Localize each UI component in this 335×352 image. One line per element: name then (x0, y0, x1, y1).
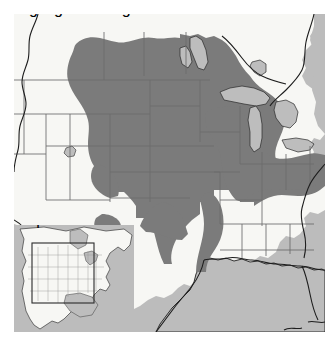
locator-inset[interactable]: Map extent (14, 225, 134, 332)
figure-page: Highlighted range Gulf of Mexico (0, 0, 335, 352)
figure-caption (0, 0, 1, 1)
main-map-ocean-label: Gulf of Mexico (14, 14, 116, 17)
locator-inset-map[interactable]: Map extent (14, 225, 134, 332)
inset-extent-label: Map extent (14, 225, 94, 228)
lake-michigan (248, 106, 262, 152)
figure-title (0, 0, 1, 1)
map-figure: Highlighted range Gulf of Mexico (14, 14, 325, 332)
